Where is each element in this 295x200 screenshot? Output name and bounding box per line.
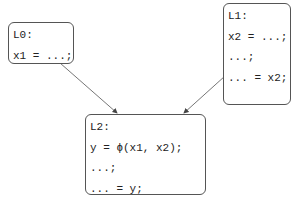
block-label: L0: [13,26,69,47]
code-line: x2 = ...; [228,28,286,49]
code-line: ... = y; [90,180,201,200]
block-l1: L1: x2 = ...; ...; ... = x2; [223,3,291,105]
code-line: ...; [90,159,201,180]
block-label: L2: [90,118,201,139]
block-label: L1: [228,7,286,28]
block-l0: L0: x1 = ...; [8,22,74,64]
edge-l0-to-l2 [60,63,117,113]
code-line: ... = x2; [228,69,286,90]
code-line: x1 = ...; [13,47,69,68]
edge-l1-to-l2 [184,76,225,113]
block-l2: L2: y = ϕ(x1, x2); ...; ... = y; [85,114,206,195]
code-line: ...; [228,48,286,69]
code-line: y = ϕ(x1, x2); [90,139,201,160]
